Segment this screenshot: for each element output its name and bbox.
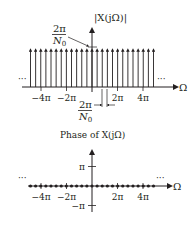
magnitude-tick-label: −2π	[57, 93, 76, 103]
impulse-height-num: 2π	[53, 23, 66, 34]
phase-dot	[131, 184, 134, 187]
spectrum-figure: |X(jΩ)| Ω ··· ··· −4π−2π2π4π 2π N0 2π N0…	[0, 0, 195, 229]
phase-dot	[44, 184, 47, 187]
phase-dot	[70, 184, 73, 187]
magnitude-y-label: |X(jΩ)|	[94, 12, 127, 24]
phase-dot	[137, 184, 140, 187]
phase-dot	[55, 184, 58, 187]
spacing-den: N0	[78, 111, 92, 124]
phase-dot	[101, 184, 104, 187]
magnitude-ellipsis-left: ···	[18, 74, 27, 84]
phase-ellipsis-right: ···	[156, 173, 165, 183]
impulse-height-label: 2π N0	[52, 23, 97, 48]
magnitude-tick-label: 2π	[112, 93, 124, 103]
phase-dot	[106, 184, 109, 187]
magnitude-ellipsis-right: ···	[157, 74, 166, 84]
phase-dot	[90, 184, 93, 187]
phase-dot	[152, 184, 155, 187]
magnitude-plot: |X(jΩ)| Ω ··· ··· −4π−2π2π4π 2π N0 2π N0	[18, 12, 187, 124]
spacing-annotation: 2π N0	[78, 89, 115, 124]
phase-dot	[96, 184, 99, 187]
phase-plot: Phase of X(jΩ) Ω ··· ··· −4π−2π2π4π π−π	[18, 130, 181, 212]
magnitude-x-label: Ω	[179, 82, 187, 93]
phase-dot	[75, 184, 78, 187]
phase-y-tick-label: π	[79, 162, 85, 172]
impulse-height-den: N0	[52, 35, 66, 48]
phase-dot	[60, 184, 63, 187]
phase-dot	[147, 184, 150, 187]
phase-dot	[85, 184, 88, 187]
phase-dot	[126, 184, 129, 187]
phase-dot	[121, 184, 124, 187]
phase-dot	[29, 184, 32, 187]
phase-x-tick-label: −4π	[31, 192, 50, 202]
impulse-height-pointer	[68, 37, 88, 46]
phase-dot	[80, 184, 83, 187]
spacing-num: 2π	[79, 99, 92, 110]
phase-x-tick-label: 2π	[112, 192, 124, 202]
phase-dot	[111, 184, 114, 187]
phase-x-label: Ω	[173, 181, 181, 192]
phase-y-tick-label: −π	[72, 201, 86, 211]
phase-x-tick-label: 4π	[137, 192, 149, 202]
impulse-train	[31, 50, 154, 87]
magnitude-tick-label: 4π	[137, 93, 149, 103]
phase-dot	[34, 184, 37, 187]
phase-ellipsis-left: ···	[18, 173, 27, 183]
phase-dot	[49, 184, 52, 187]
phase-title: Phase of X(jΩ)	[60, 130, 125, 140]
magnitude-tick-label: −4π	[31, 93, 50, 103]
